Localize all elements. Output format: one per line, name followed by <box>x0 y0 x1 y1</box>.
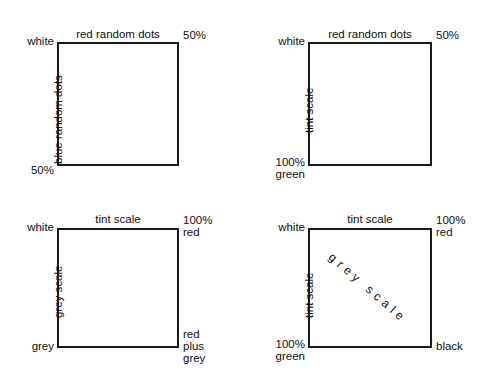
panel-bottom-left-axis-label: grey scale <box>52 266 65 318</box>
panel-top-left-corner-top-left: white <box>0 35 54 48</box>
panel-top-right-axis-label: tint scale <box>303 88 316 133</box>
panel-top-left-corner-top-right: 50% <box>183 29 243 42</box>
panel-bottom-right-corner-top-right-line1: 100% <box>436 214 491 227</box>
panel-bottom-left-corner-bottom-right-line2: plus <box>183 340 243 353</box>
panel-bottom-left-top-title: tint scale <box>57 213 179 226</box>
panel-top-right-corner-top-left: white <box>248 35 305 48</box>
panel-bottom-left-corner-bottom-right-line3: grey <box>183 352 243 365</box>
panel-bottom-left-corner-top-right-line2: red <box>183 226 243 239</box>
panel-bottom-right-corner-bottom-left-line2: green <box>248 350 305 363</box>
panel-bottom-left-square <box>57 228 179 348</box>
panel-bottom-left-corner-bottom-left: grey <box>0 340 54 353</box>
panel-bottom-right-corner-bottom-right: black <box>436 340 491 353</box>
panel-bottom-left-corner-top-right-line1: 100% <box>183 214 243 227</box>
panel-bottom-right-corner-top-left: white <box>248 221 305 234</box>
panel-top-right-square <box>308 42 432 166</box>
panel-bottom-right-corner-bottom-left-line1: 100% <box>248 338 305 351</box>
panel-bottom-right-corner-top-right-line2: red <box>436 226 491 239</box>
panel-bottom-left-corner-top-left: white <box>0 221 54 234</box>
panel-top-left-axis-label: blue random dots <box>52 75 65 164</box>
panel-top-left-square <box>57 42 179 166</box>
panel-top-left-corner-bottom-left: 50% <box>0 164 54 177</box>
panel-bottom-right-top-title: tint scale <box>308 213 432 226</box>
panel-bottom-right-axis-label: tint scale <box>303 273 316 318</box>
panel-top-right-corner-bottom-left-line1: 100% <box>248 156 305 169</box>
panel-top-right-corner-bottom-left-line2: green <box>248 168 305 181</box>
panel-top-left-top-title: red random dots <box>57 28 179 41</box>
panel-top-right-top-title: red random dots <box>308 28 432 41</box>
panel-top-right-corner-top-right: 50% <box>436 29 491 42</box>
figure-canvas: red random dots white 50% 50% blue rando… <box>0 0 491 382</box>
panel-bottom-left-corner-bottom-right-line1: red <box>183 328 243 341</box>
